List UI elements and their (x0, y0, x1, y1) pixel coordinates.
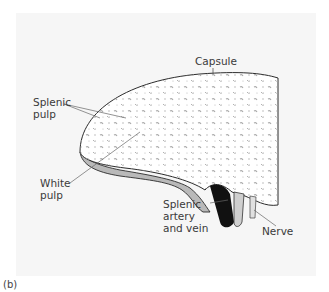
panel-label: (b) (3, 279, 17, 290)
label-nerve: Nerve (262, 225, 293, 237)
nerve-fibers (250, 196, 256, 218)
label-splenic-pulp: Splenic pulp (33, 96, 71, 120)
spleen-illustration (0, 0, 329, 292)
label-white-pulp: White pulp (40, 177, 71, 201)
splenic-artery (234, 192, 244, 227)
label-capsule: Capsule (195, 55, 237, 67)
label-splenic-artery-and-vein: Splenic artery and vein (163, 198, 208, 234)
